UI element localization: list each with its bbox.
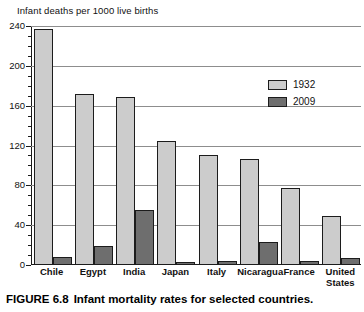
x-axis-label: Nicaragua [237,267,278,278]
bar-group [320,26,361,265]
x-axis-label: India [114,267,155,278]
bar [240,159,259,265]
figure-caption-text: Infant mortality rates for selected coun… [74,293,314,305]
x-axis-label: Japan [155,267,196,278]
axis-title: Infant deaths per 1000 live births [17,5,158,17]
bar-group [72,26,113,265]
x-axis-label: Chile [31,267,72,278]
bar [157,141,176,265]
x-axis-label: Italy [196,267,237,278]
x-axis-label: Egypt [72,267,113,278]
bar-group [237,26,278,265]
x-axis-label: United States [320,267,361,288]
bar [135,210,154,265]
legend-label: 1932 [293,80,315,90]
legend-swatch [268,80,287,90]
bar-group [114,26,155,265]
y-axis-tick-label: 120 [9,141,25,151]
figure-caption: FIGURE 6.8Infant mortality rates for sel… [6,292,362,306]
legend-label: 2009 [293,97,315,107]
legend: 19322009 [268,78,315,112]
bar [281,188,300,265]
y-axis-tick-label: 40 [14,220,25,230]
plot-area: 04080120160200240 [31,26,361,265]
y-axis-tick-label: 0 [20,260,25,270]
bar [300,261,319,265]
bar-group [279,26,320,265]
bar [322,216,341,265]
bar [199,155,218,265]
y-axis-tick-label: 160 [9,101,25,111]
bar [94,246,113,265]
y-axis-tick-label: 80 [14,181,25,191]
legend-swatch [268,97,287,107]
legend-item: 1932 [268,78,315,92]
bar [218,261,237,265]
bar [176,262,195,265]
bar [75,94,94,265]
figure-infant-mortality: Infant deaths per 1000 live births 04080… [0,0,364,312]
bar-group [155,26,196,265]
y-axis-tick-label: 240 [9,21,25,31]
bar [116,97,135,265]
x-axis-label: France [279,267,320,278]
bar [34,29,53,265]
bar [259,242,278,265]
bar-group [196,26,237,265]
y-axis-tick [26,265,31,266]
y-axis-tick-label: 200 [9,61,25,71]
bar-group [31,26,72,265]
bar [341,258,360,265]
figure-number: FIGURE 6.8 [6,293,69,305]
bar [53,257,72,265]
legend-item: 2009 [268,95,315,109]
